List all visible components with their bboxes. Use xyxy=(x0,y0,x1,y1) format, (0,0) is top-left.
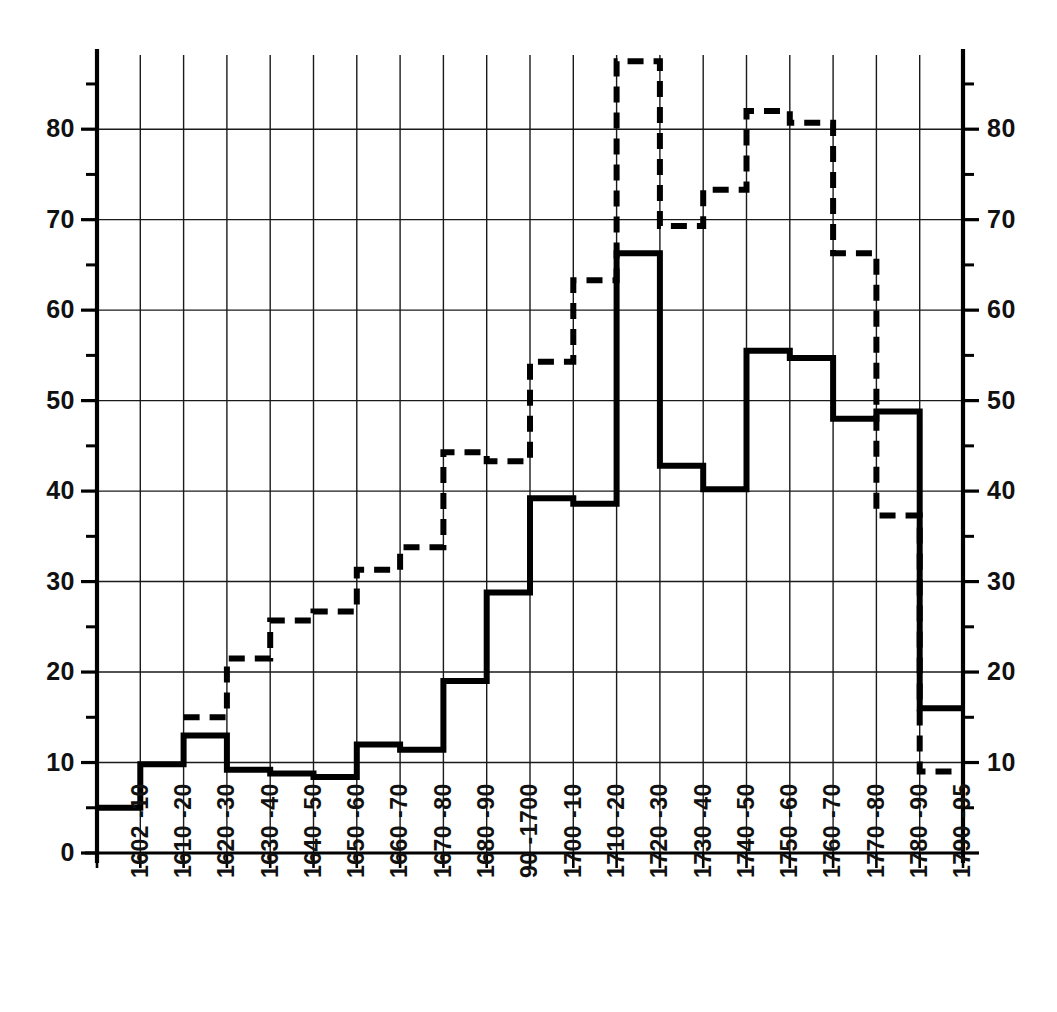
x-axis-tick-label: 1710 -20 xyxy=(605,783,628,878)
x-axis-tick-label: 1602 -10 xyxy=(129,783,152,878)
y-axis-tick-label-right: 20 xyxy=(987,659,1057,684)
y-axis-tick-label-right: 60 xyxy=(987,297,1057,322)
x-axis-tick-label: 1740 -50 xyxy=(735,783,758,878)
x-axis-tick-label: 1780 -90 xyxy=(908,783,931,878)
x-axis-tick-label: 1670 -80 xyxy=(432,783,455,878)
y-axis-tick-label-left: 30 xyxy=(7,569,75,594)
y-axis-tick-label-left: 60 xyxy=(7,297,75,322)
y-axis-tick-label-right: 50 xyxy=(987,388,1057,413)
x-axis-tick-label: 1620 -30 xyxy=(215,783,238,878)
y-axis-tick-label-left: 80 xyxy=(7,116,75,141)
y-axis-tick-label-left: 20 xyxy=(7,659,75,684)
x-axis-tick-label: 1700 -10 xyxy=(562,783,585,878)
x-axis-tick-label: 1640 -50 xyxy=(302,783,325,878)
x-axis-tick-label: 1720 -30 xyxy=(648,783,671,878)
x-axis-tick-label: 1770 -80 xyxy=(865,783,888,878)
x-axis-tick-label: 1610 -20 xyxy=(172,783,195,878)
x-axis-tick-label: 1790 -95 xyxy=(951,783,974,878)
y-axis-tick-label-left: 40 xyxy=(7,478,75,503)
y-axis-tick-label-left: 50 xyxy=(7,388,75,413)
x-axis-tick-label: 1630 -40 xyxy=(259,783,282,878)
y-axis-tick-label-left: 10 xyxy=(7,750,75,775)
x-axis-tick-label: 1680 -90 xyxy=(475,783,498,878)
x-axis-tick-label: 1730 -40 xyxy=(692,783,715,878)
y-axis-tick-label-right: 10 xyxy=(987,750,1057,775)
step-chart-figure: 01020304050607080 1020304050607080 1602 … xyxy=(0,0,1057,1012)
y-axis-tick-label-right: 80 xyxy=(987,116,1057,141)
x-axis-tick-label: 90 -1700 xyxy=(518,783,541,878)
y-axis-tick-label-left: 0 xyxy=(7,840,75,865)
x-axis-tick-label: 1760 -70 xyxy=(821,783,844,878)
x-axis-tick-label: 1750 -60 xyxy=(778,783,801,878)
x-axis-tick-label: 1650 -60 xyxy=(345,783,368,878)
y-axis-tick-label-right: 40 xyxy=(987,478,1057,503)
y-axis-tick-label-left: 70 xyxy=(7,207,75,232)
y-axis-tick-label-right: 70 xyxy=(987,207,1057,232)
x-axis-tick-label: 1660 -70 xyxy=(388,783,411,878)
y-axis-tick-label-right: 30 xyxy=(987,569,1057,594)
